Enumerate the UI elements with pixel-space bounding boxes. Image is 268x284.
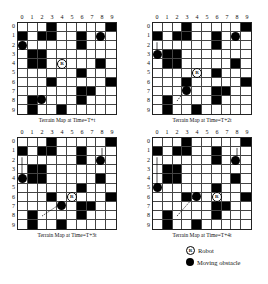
free-cell — [153, 87, 163, 96]
obstacle-cell — [182, 138, 192, 147]
free-cell — [173, 78, 183, 87]
free-cell — [231, 69, 241, 78]
moving-obstacle-icon — [18, 41, 27, 50]
free-cell — [222, 96, 232, 105]
free-cell — [163, 87, 173, 96]
free-cell — [241, 147, 251, 156]
free-cell — [192, 138, 202, 147]
moving-obstacle-icon — [153, 50, 162, 59]
free-cell — [47, 184, 57, 193]
free-cell — [106, 202, 116, 211]
free-cell — [96, 41, 106, 50]
obstacle-cell — [47, 147, 57, 156]
free-cell — [153, 193, 163, 202]
obstacle-cell — [192, 220, 202, 229]
obstacle-cell — [182, 32, 192, 41]
free-cell — [38, 105, 48, 114]
free-cell — [222, 220, 232, 229]
row-label: 7 — [7, 87, 15, 96]
row-label: 6 — [7, 193, 15, 202]
free-cell — [57, 23, 67, 32]
column-label: 2 — [172, 13, 182, 21]
free-cell — [192, 23, 202, 32]
free-cell — [192, 202, 202, 211]
free-cell — [18, 156, 28, 165]
column-label: 2 — [172, 128, 182, 136]
free-cell — [212, 174, 222, 183]
obstacle-cell — [87, 87, 97, 96]
free-cell — [87, 78, 97, 87]
column-label: 0 — [17, 13, 27, 21]
panel-caption: Terrain Map at Time=T+4t — [152, 232, 252, 238]
column-labels: 0123456789 — [17, 128, 117, 136]
free-cell — [38, 23, 48, 32]
free-cell — [57, 165, 67, 174]
free-cell — [106, 59, 116, 68]
free-cell — [241, 105, 251, 114]
free-cell — [231, 41, 241, 50]
free-cell — [67, 78, 77, 87]
free-cell — [222, 147, 232, 156]
obstacle-cell — [163, 59, 173, 68]
obstacle-cell — [153, 32, 163, 41]
panel-t3: 01234567890123456789RTerrain Map at Time… — [7, 128, 127, 244]
free-cell — [222, 23, 232, 32]
free-cell — [153, 41, 163, 50]
obstacle-cell — [28, 211, 38, 220]
free-cell — [96, 184, 106, 193]
row-label: 6 — [142, 78, 150, 87]
row-label: 2 — [142, 41, 150, 50]
free-cell — [57, 174, 67, 183]
column-label: 4 — [57, 128, 67, 136]
free-cell — [182, 202, 192, 211]
free-cell — [67, 138, 77, 147]
legend: R Robot Moving obstacle — [186, 244, 241, 268]
free-cell — [163, 184, 173, 193]
row-labels: 0123456789 — [7, 137, 15, 230]
free-cell — [18, 211, 28, 220]
terrain-grid: R — [17, 22, 117, 115]
obstacle-cell — [18, 32, 28, 41]
free-cell — [96, 193, 106, 202]
free-cell — [202, 174, 212, 183]
free-cell — [57, 138, 67, 147]
column-label: 7 — [222, 13, 232, 21]
row-label: 3 — [7, 50, 15, 59]
obstacle-cell — [87, 202, 97, 211]
column-label: 1 — [162, 13, 172, 21]
free-cell — [96, 105, 106, 114]
free-cell — [163, 41, 173, 50]
free-cell — [202, 32, 212, 41]
free-cell — [202, 96, 212, 105]
free-cell — [67, 50, 77, 59]
robot-icon: R — [57, 59, 67, 69]
free-cell — [182, 184, 192, 193]
free-cell — [106, 184, 116, 193]
column-label: 2 — [37, 128, 47, 136]
free-cell — [77, 220, 87, 229]
free-cell — [173, 156, 183, 165]
free-cell — [231, 50, 241, 59]
row-label: 0 — [7, 22, 15, 31]
obstacle-cell — [47, 32, 57, 41]
column-label: 9 — [107, 128, 117, 136]
free-cell — [182, 105, 192, 114]
free-cell — [231, 220, 241, 229]
free-cell — [28, 78, 38, 87]
moving-obstacle-icon — [57, 201, 66, 210]
free-cell — [182, 211, 192, 220]
column-label: 1 — [162, 128, 172, 136]
obstacle-cell — [241, 78, 251, 87]
row-label: 9 — [7, 106, 15, 115]
robot-icon: R — [186, 246, 195, 255]
column-labels: 0123456789 — [152, 128, 252, 136]
free-cell — [67, 41, 77, 50]
free-cell — [153, 96, 163, 105]
obstacle-cell — [241, 193, 251, 202]
free-cell — [96, 69, 106, 78]
moving-obstacle-icon — [192, 192, 201, 201]
row-label: 2 — [7, 156, 15, 165]
free-cell — [106, 211, 116, 220]
free-cell — [87, 59, 97, 68]
free-cell — [87, 23, 97, 32]
